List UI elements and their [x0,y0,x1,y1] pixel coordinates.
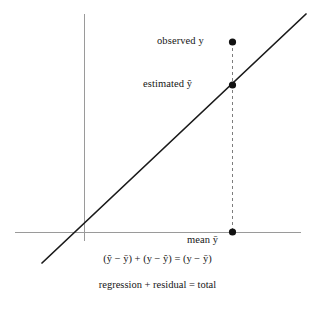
label-mean-y-bar: mean ȳ [187,234,218,246]
label-observed-y: observed y [157,35,204,47]
point-observed-y [229,38,236,45]
point-mean-y-bar [229,228,236,235]
decomposition-caption: regression + residual = total [0,279,315,290]
label-estimated-y-hat: estimated ŷ [143,78,192,90]
regression-line [42,14,306,263]
point-estimated-y-hat [229,81,236,88]
plot-canvas [0,0,315,316]
regression-decomposition-figure: regression + residual decomposition obse… [0,0,315,316]
decomposition-formula: (ŷ − ȳ) + (y − ŷ) = (y − ȳ) [0,253,315,264]
